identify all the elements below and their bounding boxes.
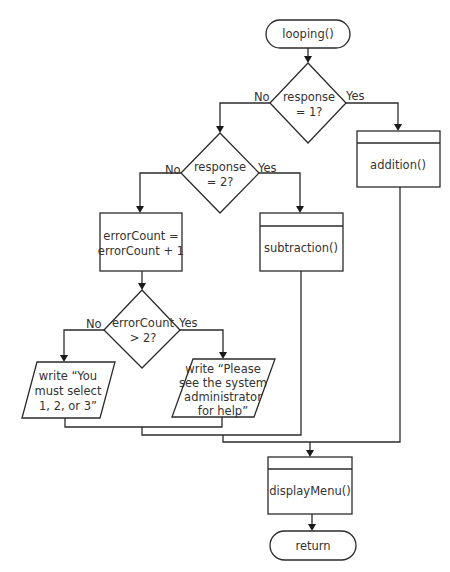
node-label: write “Please: [185, 362, 261, 376]
node-label: 1, 2, or 3”: [39, 399, 97, 413]
arrowhead: [296, 206, 304, 213]
node-label: errorCount: [112, 316, 174, 330]
node-label: see the system: [179, 376, 267, 390]
edge-decision3-no: [64, 330, 104, 356]
yes-label: Yes: [345, 89, 365, 103]
edge-decision2-yes: [259, 173, 300, 207]
no-label: No: [86, 317, 102, 331]
arrowhead: [60, 355, 68, 362]
node-label: errorCount =: [103, 229, 178, 243]
arrowhead: [136, 206, 144, 213]
arrowhead: [306, 450, 314, 457]
node-label: administrator: [184, 390, 262, 404]
yes-label: Yes: [257, 161, 277, 175]
edge-decision2-no: [140, 173, 181, 207]
io-select-message: write “You must select 1, 2, or 3”: [22, 362, 115, 418]
node-label: response: [194, 160, 246, 174]
yes-label: Yes: [178, 316, 198, 330]
decision-errorcount: errorCount > 2? No Yes: [86, 290, 198, 368]
edge-decision3-yes: [180, 330, 223, 353]
flowchart: looping() response = 1? No Yes addition(…: [0, 0, 450, 572]
process-displaymenu: displayMenu(): [268, 457, 352, 514]
arrowhead: [219, 352, 227, 359]
arrowhead: [304, 56, 312, 63]
arrowhead: [394, 124, 402, 131]
process-increment-errorcount: errorCount = errorCount + 1: [98, 213, 184, 271]
node-label: return: [295, 539, 330, 553]
io-admin-message: write “Please see the system administrat…: [172, 359, 275, 418]
node-label: errorCount + 1: [98, 244, 184, 258]
node-label: response: [283, 90, 335, 104]
arrowhead: [216, 126, 224, 133]
no-label: No: [254, 90, 270, 104]
process-subtraction: subtraction(): [260, 213, 343, 271]
node-label: addition(): [370, 158, 426, 172]
decision-response-2: response = 2? No Yes: [165, 133, 277, 213]
terminator-return: return: [270, 531, 356, 560]
node-label: looping(): [282, 27, 333, 41]
node-label: = 2?: [207, 175, 234, 189]
node-label: for help”: [198, 404, 248, 418]
process-addition: addition(): [357, 131, 440, 187]
arrowhead: [138, 283, 146, 290]
edge-decision1-yes: [346, 103, 398, 125]
no-label: No: [165, 163, 181, 177]
node-label: subtraction(): [264, 241, 338, 255]
edge-decision1-no: [220, 103, 270, 127]
terminator-looping: looping(): [266, 20, 350, 48]
node-label: displayMenu(): [269, 484, 350, 498]
node-label: = 1?: [296, 105, 323, 119]
arrowhead: [308, 524, 316, 531]
node-label: write “You: [39, 369, 97, 383]
node-label: > 2?: [130, 331, 157, 345]
node-label: must select: [35, 384, 102, 398]
